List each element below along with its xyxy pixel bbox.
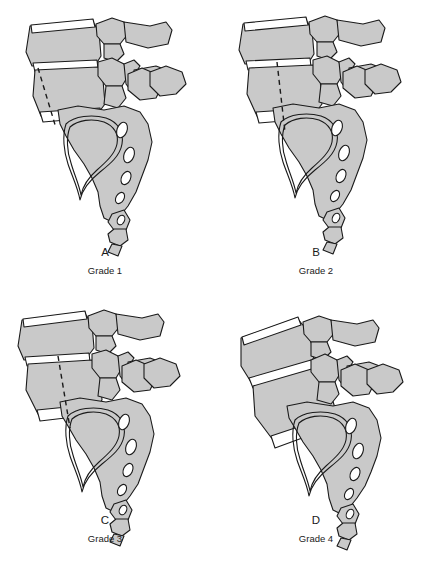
l5-inferior-facet [104,86,126,108]
l4-pedicle [303,316,335,342]
l4-spinous-process [116,314,164,340]
panel-c-letter: C [0,514,210,527]
l5-pedicle [92,350,122,378]
l5-pedicle [98,58,128,86]
l4-pedicle [88,310,120,336]
coccyx-segment-2 [323,227,343,244]
sacral-posterior-element [367,364,403,394]
panel-d-illustration [211,290,421,538]
sacrum [273,104,367,220]
panel-b-illustration [211,0,421,250]
panel-a-grade-label: Grade 1 [0,265,210,277]
l4-spinous-process [337,20,385,46]
panel-d-letter: D [211,514,421,527]
l5-pedicle [313,56,343,84]
panel-a-letter: A [0,246,210,259]
l4-spinous-process [331,320,379,346]
spondylolisthesis-figure: A Grade 1 [0,0,421,578]
sacrum [58,106,152,222]
spine-diagram-d [211,290,421,538]
panel-b-letter: B [211,246,421,259]
l5-inferior-facet [319,84,341,106]
l4-spinous-process [124,22,172,48]
sacral-posterior-element [150,66,186,96]
panel-b-grade-label: Grade 2 [211,265,421,277]
l4-pedicle [96,18,128,44]
spine-diagram-b [211,0,421,250]
l5-inferior-facet [98,378,120,400]
sacral-posterior-element [365,64,401,94]
l4-pedicle [309,16,341,42]
l5-inferior-facet [317,382,339,404]
spine-diagram-c [0,290,210,538]
l5-pedicle [311,354,341,382]
panel-c-illustration [0,290,210,538]
panel-c-grade-label: Grade 3 [0,533,210,545]
coccyx-segment-2 [108,229,128,246]
panel-d-grade-label: Grade 4 [211,533,421,545]
sacral-posterior-element [144,358,180,388]
panel-a-illustration [0,0,210,250]
spine-diagram-a [0,0,210,250]
